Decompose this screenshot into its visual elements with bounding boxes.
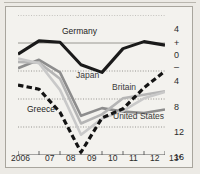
- x-axis-tick-label: 07: [45, 153, 54, 163]
- plot-area: [18, 15, 165, 155]
- series-label-britain: Britain: [112, 82, 136, 92]
- x-axis-tick-label: 08: [66, 153, 75, 163]
- y-axis-tick-label: 12: [174, 128, 184, 137]
- y-axis-tick-label: +: [174, 39, 179, 48]
- x-axis-labels: 200607080910111213*: [5, 150, 193, 166]
- chart-frame: 4+0–481216: [5, 6, 193, 168]
- plot-svg: [18, 15, 165, 155]
- y-axis-tick-label: 4: [174, 25, 179, 34]
- y-axis-tick-label: 0: [174, 51, 179, 60]
- series-lines-group: [18, 41, 165, 152]
- series-label-greece: Greece: [27, 104, 55, 114]
- series-line-germany: [18, 41, 165, 73]
- series-label-germany: Germany: [62, 26, 97, 36]
- chart-screenshot: 4+0–481216 200607080910111213* GermanyGr…: [0, 0, 200, 174]
- y-axis-tick-label: 4: [174, 77, 179, 86]
- top-divider-rule: [4, 2, 196, 3]
- x-axis-tick-label: 10: [108, 153, 117, 163]
- series-label-japan: Japan: [76, 70, 99, 80]
- gridlines-group: [18, 15, 165, 155]
- y-axis-tick-label: 8: [174, 103, 179, 112]
- series-label-united-states: United States: [113, 111, 164, 121]
- x-axis-tick-label: 11: [129, 153, 138, 163]
- x-axis-tick-label: 12: [150, 153, 159, 163]
- x-axis-tick-label: 2006: [11, 153, 30, 163]
- x-axis-tick-label: 09: [87, 153, 96, 163]
- y-axis-tick-label: –: [174, 63, 179, 72]
- x-axis-tick-label: 13*: [169, 153, 182, 163]
